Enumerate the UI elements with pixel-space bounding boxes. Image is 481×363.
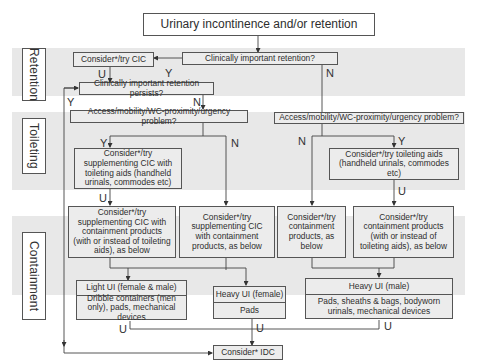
start-node-title: Urinary incontinence and/or retention [143,13,375,36]
edge-label-no-persists: N [193,97,201,108]
action-containment: Consider*/try containment products, as b… [277,206,346,258]
edge-label-yes-access-left: Y [100,138,107,149]
action-cic-containment-with-or-instead: Consider*/try supplementing CIC with con… [68,206,176,258]
decision-access-problem-left: Access/mobility/WC-proximity/urgency pro… [70,110,248,123]
heavy-ui-female-header: Heavy UI (female) [214,287,285,303]
heavy-ui-female-box: Heavy UI (female) Pads [213,286,286,319]
action-consider-cic: Consider*/try CIC [73,52,154,67]
edge-label-no-access-left: N [231,138,239,149]
action-toileting-aids: Consider*/try toileting aids (handheld u… [329,148,459,180]
action-containment-with-or-instead: Consider*/try containment products (with… [353,206,454,258]
edge-label-no-access-right: N [298,136,306,147]
action-cic-containment: Consider*/try supplementing CIC with con… [179,206,275,258]
heavy-ui-male-box: Heavy UI (male) Pads, sheaths & bags, bo… [305,278,453,319]
edge-label-unsuccessful-heavy-female: U [256,323,264,334]
light-ui-box: Light UI (female & male) Dribble contain… [76,280,187,320]
action-cic-toileting-aids: Consider*/try supplementing CIC with toi… [74,148,182,189]
edge-label-unsuccessful-cic: U [98,69,106,80]
edge-label-no-retention: N [326,68,334,79]
decision-access-problem-right: Access/mobility/WC-proximity/urgency pro… [274,112,464,124]
edge-label-unsuccessful-toileting: U [398,186,406,197]
decision-clinically-important-retention: Clinically important retention? [182,52,338,65]
decision-retention-persists: Clinically important retention persists? [79,82,214,95]
light-ui-body: Dribble containers (men only), pads, mec… [77,296,186,320]
edge-label-yes-retention: Y [165,68,172,79]
heavy-ui-male-body: Pads, sheaths & bags, bodyworn urinals, … [306,295,452,319]
edge-label-unsuccessful-cic-toileting: U [99,193,107,204]
action-consider-idc: Consider* IDC [213,345,283,360]
heavy-ui-female-body: Pads [214,303,285,319]
edge-label-unsuccessful-heavy-male: U [384,321,392,332]
edge-label-yes-access-right: Y [398,136,405,147]
edge-label-unsuccessful-light-ui: U [119,324,127,335]
heavy-ui-male-header: Heavy UI (male) [306,279,452,295]
edge-label-yes-persists: Y [67,97,74,108]
